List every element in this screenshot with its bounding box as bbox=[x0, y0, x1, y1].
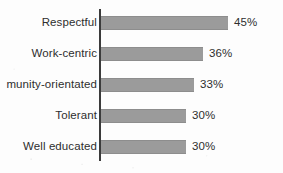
category-label: Tolerant bbox=[0, 107, 97, 123]
bar-value-label: 45% bbox=[234, 14, 257, 30]
bar bbox=[101, 47, 203, 61]
bar bbox=[101, 140, 186, 154]
category-label: Work-centric bbox=[0, 45, 97, 61]
category-label: munity-orientated bbox=[0, 76, 97, 92]
bar-row: Tolerant30% bbox=[0, 109, 283, 123]
bar-value-label: 30% bbox=[192, 107, 215, 123]
plot-area: Respectful45%Work-centric36%munity-orien… bbox=[0, 0, 283, 173]
bar-chart: Respectful45%Work-centric36%munity-orien… bbox=[0, 0, 283, 173]
category-axis-line bbox=[99, 9, 101, 161]
bar bbox=[101, 78, 194, 92]
bar-value-label: 36% bbox=[209, 45, 232, 61]
bar-row: Work-centric36% bbox=[0, 47, 283, 61]
category-label: Well educated bbox=[0, 138, 97, 154]
bar bbox=[101, 16, 228, 30]
bar bbox=[101, 109, 186, 123]
bar-row: munity-orientated33% bbox=[0, 78, 283, 92]
bar-value-label: 30% bbox=[192, 138, 215, 154]
bar-row: Well educated30% bbox=[0, 140, 283, 154]
bar-row: Respectful45% bbox=[0, 16, 283, 30]
category-label: Respectful bbox=[0, 14, 97, 30]
bar-value-label: 33% bbox=[200, 76, 223, 92]
